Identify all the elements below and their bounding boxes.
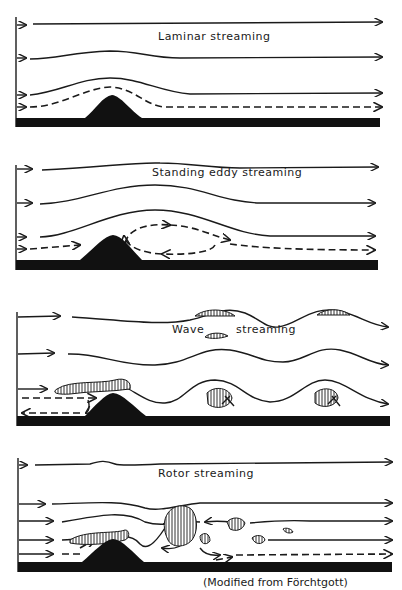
panel-title-wave-right: streaming bbox=[236, 323, 296, 336]
panel-title-wave-left: Wave bbox=[172, 323, 204, 336]
airflow-diagram bbox=[0, 0, 402, 590]
panel-title-rotor: Rotor streaming bbox=[158, 467, 254, 480]
figure-caption: (Modified from Förchtgott) bbox=[203, 576, 348, 589]
panel-title-laminar: Laminar streaming bbox=[158, 30, 270, 43]
panel-title-standing-eddy: Standing eddy streaming bbox=[152, 166, 302, 179]
